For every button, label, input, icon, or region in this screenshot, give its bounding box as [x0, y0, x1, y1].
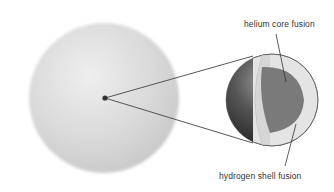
core-dot	[102, 95, 107, 100]
helium-core-fusion-label: helium core fusion	[244, 19, 315, 29]
core-cutaway-sphere	[226, 54, 318, 146]
hydrogen-shell-fusion-label: hydrogen shell fusion	[219, 171, 301, 181]
